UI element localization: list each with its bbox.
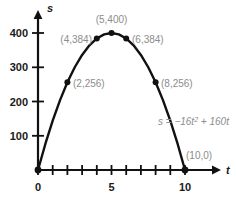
parabola-chart-figure: s t 0 5 10 100 200 300 (0, 0, 236, 200)
data-point-8-256 (153, 79, 159, 85)
y-axis-arrowhead (34, 10, 43, 19)
y-tick-label-200: 200 (10, 96, 28, 108)
data-point-markers (35, 30, 189, 173)
point-label-8-256: (8,256) (161, 78, 193, 89)
data-point-2-256 (64, 79, 70, 85)
equation-lhs: s = −16 (158, 116, 192, 127)
data-point-4-384 (94, 35, 100, 41)
x-tick-label-5: 5 (108, 181, 114, 193)
data-point-10-0 (182, 167, 189, 174)
x-axis-title: t (226, 164, 231, 176)
data-point-6-384 (123, 35, 129, 41)
equation-rhs: + 160 (198, 116, 227, 127)
data-point-5-400 (109, 30, 115, 36)
parabola-curve (38, 33, 185, 170)
x-axis-arrowhead (212, 166, 221, 175)
y-tick-label-100: 100 (10, 130, 28, 142)
chart-canvas: s t 0 5 10 100 200 300 (0, 0, 236, 200)
y-axis-title: s (47, 2, 53, 14)
point-label-6-384: (6,384) (132, 34, 164, 45)
point-label-4-384: (4,384) (60, 34, 92, 45)
equation-var-2: t (226, 116, 230, 127)
point-label-10-0: (10,0) (186, 150, 212, 161)
point-label-2-256: (2,256) (73, 78, 105, 89)
y-tick-label-300: 300 (10, 61, 28, 73)
x-tick-label-0: 0 (35, 181, 41, 193)
point-label-5-400: (5,400) (96, 14, 128, 25)
data-point-0-0 (35, 167, 42, 174)
x-tick-label-10: 10 (179, 181, 191, 193)
y-tick-label-400: 400 (10, 27, 28, 39)
equation-annotation: s = −16t2 + 160t (158, 116, 230, 127)
svg-text:s = −16t2 + 160t: s = −16t2 + 160t (158, 116, 230, 127)
